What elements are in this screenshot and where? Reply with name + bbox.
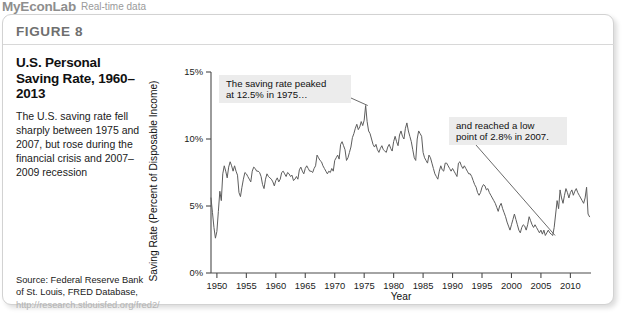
myeconlab-banner: MyEconLab Real-time data [0, 0, 260, 15]
y-tick-label: 5% [189, 200, 203, 211]
x-tick-label: 1965 [295, 280, 316, 291]
trough-annotation-leader [476, 145, 555, 235]
x-tick-label: 2000 [501, 280, 522, 291]
x-tick-label: 1980 [383, 280, 404, 291]
figure-number-label: FIGURE 8 [16, 24, 83, 39]
chart-svg: Saving Rate (Percent of Disposable Incom… [146, 51, 606, 301]
x-tick-label: 2010 [560, 280, 581, 291]
x-tick-label: 1960 [265, 280, 286, 291]
x-tick-label: 1995 [472, 280, 493, 291]
figure-title: U.S. Personal Saving Rate, 1960–2013 [16, 55, 142, 102]
x-tick-label: 1990 [442, 280, 463, 291]
peak-annotation: The saving rate peaked at 12.5% in 1975… [219, 75, 368, 106]
y-axis-title: Saving Rate (Percent of Disposable Incom… [148, 80, 159, 281]
trough-annotation: and reached a low point of 2.8% in 2007. [449, 117, 567, 235]
figure-caption-column: U.S. Personal Saving Rate, 1960–2013 The… [16, 55, 142, 180]
y-axis-ticks: 0%5%10%15% [184, 66, 211, 278]
x-axis-ticks: 1950195519601965197019751980198519901995… [206, 273, 580, 291]
x-tick-label: 1975 [354, 280, 375, 291]
source-text: Source: Federal Reserve Bank of St. Loui… [16, 275, 143, 297]
x-tick-label: 2005 [530, 280, 551, 291]
peak-annotation-leader [351, 98, 368, 106]
peak-annotation-line-1: The saving rate peaked [226, 78, 326, 89]
x-tick-label: 1985 [413, 280, 434, 291]
saving-rate-chart: Saving Rate (Percent of Disposable Incom… [146, 51, 606, 301]
x-tick-label: 1955 [236, 280, 257, 291]
x-axis-title: Year [391, 291, 412, 301]
figure-source: Source: Federal Reserve Bank of St. Loui… [16, 274, 151, 311]
peak-annotation-line-2: at 12.5% in 1975… [226, 89, 308, 100]
figure-panel: FIGURE 8 U.S. Personal Saving Rate, 1960… [2, 14, 614, 305]
x-tick-label: 1970 [324, 280, 345, 291]
figure-description: The U.S. saving rate fell sharply betwee… [16, 109, 142, 180]
trough-annotation-line-1: and reached a low [456, 120, 534, 131]
x-tick-label: 1950 [206, 280, 227, 291]
trough-annotation-line-2: point of 2.8% in 2007. [456, 131, 549, 142]
myeconlab-subtitle: Real-time data [81, 1, 146, 12]
source-url[interactable]: http://research.stlouisfed.org/fred2/ [16, 300, 160, 310]
y-tick-label: 0% [189, 267, 203, 278]
y-tick-label: 10% [184, 133, 203, 144]
myeconlab-brand: MyEconLab [2, 0, 76, 14]
figure-header-divider [3, 44, 614, 45]
y-tick-label: 15% [184, 66, 203, 77]
